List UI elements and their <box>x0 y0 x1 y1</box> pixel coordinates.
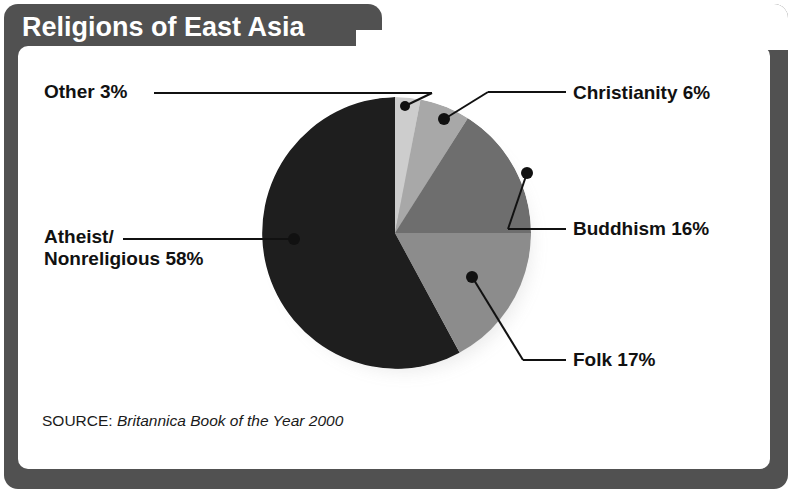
label-buddhism: Buddhism 16% <box>573 218 709 240</box>
title-tab-notch <box>356 4 788 50</box>
label-other: Other 3% <box>44 81 127 103</box>
source-note: SOURCE: Britannica Book of the Year 2000 <box>42 412 343 430</box>
pie-chart <box>259 97 539 377</box>
chart-screenshot: Religions of East Asia <box>0 0 792 493</box>
label-atheist-line2: Nonreligious 58% <box>44 248 203 270</box>
pie-svg <box>259 97 531 369</box>
label-folk: Folk 17% <box>573 349 655 371</box>
label-atheist: Atheist/ Nonreligious 58% <box>44 226 203 270</box>
pie-slices <box>259 97 531 369</box>
source-label: SOURCE: <box>42 412 113 429</box>
label-christianity: Christianity 6% <box>573 82 710 104</box>
source-citation: Britannica Book of the Year 2000 <box>117 412 343 429</box>
title-bar: Religions of East Asia <box>22 10 352 44</box>
page-title: Religions of East Asia <box>22 14 305 41</box>
label-atheist-line1: Atheist/ <box>44 226 203 248</box>
chart-panel: Other 3% Christianity 6% Buddhism 16% Fo… <box>18 46 770 469</box>
